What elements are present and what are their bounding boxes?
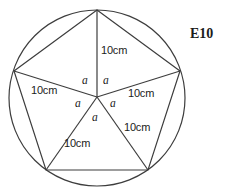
angle-label-left: a (75, 98, 81, 110)
angle-label-upper-left: a (82, 75, 88, 87)
geometry-figure: 10cm 10cm 10cm 10cm 10cm a a a a a E10 (0, 0, 227, 196)
figure-tag: E10 (190, 27, 213, 41)
angle-label-right: a (110, 98, 116, 110)
side-label-right: 10cm (128, 88, 154, 99)
angle-label-bottom: a (92, 112, 98, 124)
radius-to-lower-left (46, 97, 97, 170)
angle-label-upper-right: a (103, 75, 109, 87)
radius-to-lower-right (97, 97, 148, 170)
side-label-top-right: 10cm (101, 45, 127, 56)
side-label-lower-right: 10cm (124, 122, 150, 133)
side-label-bottom: 10cm (64, 138, 90, 149)
side-label-left: 10cm (31, 85, 57, 96)
